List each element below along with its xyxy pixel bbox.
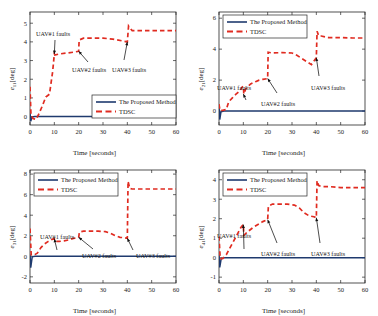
annotation-uav2-faults: UAV#2 faults [261, 250, 296, 257]
x-tick-label: 30 [100, 128, 107, 135]
plot-group-p1: 0102030405060012345UAV#1 faultsUAV#2 fau… [24, 12, 180, 135]
y-axis-subscript-p1: 11 [12, 82, 17, 87]
legend-label-proposed: The Proposed Method [119, 98, 177, 105]
x-axis-title-p3: Time [seconds] [0, 307, 189, 315]
subplot-e11: e11[deg] 0102030405060012345UAV#1 faults… [0, 0, 189, 158]
x-tick-label: 60 [362, 128, 369, 135]
annotation-uav1-faults: UAV#1 faults [217, 84, 252, 91]
annotation-uav2-faults: UAV#2 faults [82, 252, 117, 259]
y-tick-label: -2 [22, 273, 27, 280]
x-tick-label: 50 [148, 128, 155, 135]
x-tick-label: 0 [217, 128, 220, 135]
x-tick-label: 60 [173, 128, 180, 135]
y-tick-label: 1 [24, 94, 27, 101]
y-axis-subscript-p3: 31 [12, 240, 17, 245]
legend-label-proposed: The Proposed Method [250, 18, 308, 25]
y-tick-label: 5 [24, 20, 27, 27]
plot-group-p4: 0102030405060-101234UAV#1 faultsUAV#2 fa… [211, 170, 369, 293]
legend-label-tdsc: TDSC [119, 108, 135, 115]
legend-label-tdsc: TDSC [250, 28, 266, 35]
annotation-uav3-faults: UAV#3 faults [112, 66, 147, 73]
x-tick-label: 60 [362, 286, 369, 293]
plot-group-p3: 0102030405060-202468UAV#1 faultsUAV#2 fa… [22, 170, 180, 293]
subplot-e31: e31[deg] 0102030405060-202468UAV#1 fault… [0, 158, 189, 316]
y-tick-label: 0 [213, 107, 216, 114]
legend-label-proposed: The Proposed Method [61, 176, 119, 183]
y-axis-subscript-p4: 41 [201, 240, 206, 245]
y-axis-title-p2: e21[deg] [197, 68, 206, 91]
series-line-proposed [219, 106, 365, 120]
plot-canvas-p4: 0102030405060-101234UAV#1 faultsUAV#2 fa… [189, 158, 378, 316]
x-tick-label: 20 [75, 128, 82, 135]
x-axis-title-p4: Time [seconds] [189, 307, 378, 315]
x-tick-label: 50 [148, 286, 155, 293]
annotation-uav1-faults-arrowhead [53, 51, 56, 54]
x-tick-label: 30 [289, 286, 296, 293]
x-tick-label: 10 [240, 286, 247, 293]
y-tick-label: 3 [213, 196, 216, 203]
x-tick-label: 50 [337, 128, 344, 135]
annotation-uav3-faults-arrow [316, 218, 320, 243]
annotation-uav1-faults: UAV#1 faults [36, 30, 71, 37]
annotation-uav3-faults: UAV#3 faults [136, 252, 171, 259]
x-axis-title-p1: Time [seconds] [0, 149, 189, 157]
x-tick-label: 10 [51, 128, 58, 135]
legend-p2: The Proposed MethodTDSC [223, 15, 308, 38]
annotation-uav2-faults-arrow [268, 220, 277, 243]
subplot-e41: e41[deg] 0102030405060-101234UAV#1 fault… [189, 158, 378, 316]
x-tick-label: 20 [264, 128, 271, 135]
y-tick-label: 6 [24, 191, 28, 198]
annotation-uav1-faults: UAV#1 faults [40, 233, 75, 240]
y-axis-symbol-p3: e [8, 245, 16, 248]
x-tick-label: 30 [289, 128, 296, 135]
plot-group-p2: 01020304050600246UAV#1 faultsUAV#2 fault… [213, 12, 369, 135]
annotation-uav2-faults: UAV#2 faults [261, 100, 296, 107]
x-tick-label: 50 [337, 286, 344, 293]
x-tick-label: 30 [100, 286, 107, 293]
y-axis-symbol-p4: e [197, 245, 205, 248]
y-tick-label: 4 [213, 45, 217, 52]
y-tick-label: 4 [24, 38, 28, 45]
y-axis-unit-p1: [deg] [8, 68, 16, 83]
subplot-e21: e21[deg] 01020304050600246UAV#1 faultsUA… [189, 0, 378, 158]
y-axis-unit-p2: [deg] [197, 68, 205, 83]
y-axis-title-p1: e11[deg] [8, 68, 17, 91]
annotation-uav2-faults: UAV#2 faults [72, 66, 107, 73]
x-tick-label: 40 [313, 286, 320, 293]
y-tick-label: 2 [24, 232, 27, 239]
y-tick-label: 2 [24, 76, 27, 83]
annotation-uav3-faults: UAV#3 faults [311, 84, 346, 91]
plot-canvas-p1: 0102030405060012345UAV#1 faultsUAV#2 fau… [0, 0, 189, 158]
x-tick-label: 40 [313, 128, 320, 135]
y-tick-label: 3 [24, 57, 27, 64]
x-tick-label: 10 [240, 128, 247, 135]
y-tick-label: 4 [213, 176, 217, 183]
legend-label-tdsc: TDSC [250, 186, 266, 193]
annotation-uav2-faults-arrowhead [268, 220, 271, 224]
legend-label-tdsc: TDSC [61, 186, 77, 193]
y-axis-symbol-p2: e [197, 87, 205, 90]
y-tick-label: 1 [213, 234, 216, 241]
x-tick-label: 40 [124, 286, 131, 293]
x-tick-label: 60 [173, 286, 180, 293]
legend-label-proposed: The Proposed Method [250, 176, 308, 183]
x-axis-title-p2: Time [seconds] [189, 149, 378, 157]
y-axis-title-p3: e31[deg] [8, 226, 17, 249]
x-tick-label: 10 [51, 286, 58, 293]
legend-p3: The Proposed MethodTDSC [34, 173, 119, 196]
x-tick-label: 20 [75, 286, 82, 293]
annotation-uav3-faults-arrowhead [315, 218, 318, 222]
legend-p4: The Proposed MethodTDSC [223, 173, 308, 196]
y-tick-label: 4 [24, 212, 28, 219]
annotation-uav1-faults: UAV#1 faults [217, 232, 252, 239]
x-tick-label: 0 [217, 286, 220, 293]
figure-four-subplots: e11[deg] 0102030405060012345UAV#1 faults… [0, 0, 378, 316]
y-tick-label: 2 [213, 215, 216, 222]
y-axis-symbol-p1: e [8, 87, 16, 90]
legend-p1: The Proposed MethodTDSC [92, 95, 177, 118]
x-tick-label: 40 [124, 128, 131, 135]
x-tick-label: 0 [28, 128, 31, 135]
annotation-uav3-faults: UAV#3 faults [311, 250, 346, 257]
y-axis-unit-p4: [deg] [197, 226, 205, 241]
y-tick-label: 0 [213, 254, 216, 261]
